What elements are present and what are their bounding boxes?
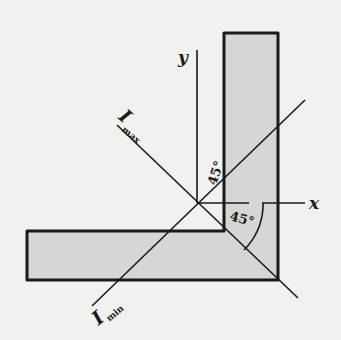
imax-symbol: I (114, 104, 137, 128)
y-axis-label: y (177, 47, 189, 67)
l-section-diagram: y x I max I min 45° 45° (0, 0, 341, 340)
diagram-canvas: y x I max I min 45° 45° (0, 0, 341, 340)
x-axis-label: x (308, 193, 320, 213)
imin-subscript: min (104, 303, 126, 323)
imax-subscript: max (120, 124, 143, 145)
imin-label: I min (86, 292, 126, 331)
